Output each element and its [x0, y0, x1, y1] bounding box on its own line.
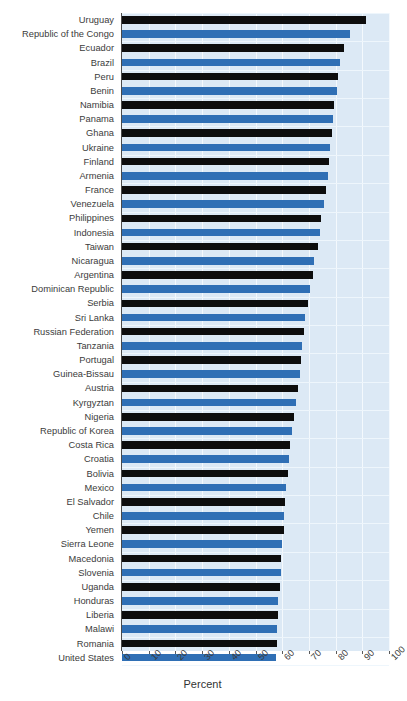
bar-row	[122, 141, 389, 155]
bar-row	[122, 424, 389, 438]
category-label: Armenia	[0, 169, 118, 183]
bar	[122, 271, 313, 279]
bar	[122, 87, 337, 95]
bar	[122, 583, 280, 591]
category-axis-labels: UruguayRepublic of the CongoEcuadorBrazi…	[0, 13, 118, 665]
category-label: Philippines	[0, 211, 118, 225]
bar	[122, 44, 344, 52]
x-tick-label: 0	[122, 651, 133, 662]
bar-rows	[122, 13, 389, 651]
bar-row	[122, 98, 389, 112]
category-label: Nicaragua	[0, 254, 118, 268]
bar-row	[122, 70, 389, 84]
bar	[122, 158, 329, 166]
category-label: Nigeria	[0, 410, 118, 424]
bar-row	[122, 594, 389, 608]
bar	[122, 101, 334, 109]
bar	[122, 385, 298, 393]
category-label: United States	[0, 651, 118, 665]
bar-row	[122, 353, 389, 367]
bar	[122, 512, 284, 520]
bar	[122, 611, 278, 619]
bar-row	[122, 467, 389, 481]
bar-row	[122, 126, 389, 140]
category-label: Kyrgyztan	[0, 396, 118, 410]
bar	[122, 215, 321, 223]
bar-row	[122, 396, 389, 410]
bar-row	[122, 13, 389, 27]
bar-row	[122, 296, 389, 310]
bar	[122, 328, 304, 336]
bar	[122, 229, 320, 237]
category-label: Uruguay	[0, 13, 118, 27]
category-label: Brazil	[0, 56, 118, 70]
x-axis-title: Percent	[0, 678, 405, 690]
bar-row	[122, 495, 389, 509]
bar	[122, 200, 324, 208]
bar	[122, 285, 310, 293]
bar	[122, 186, 326, 194]
category-label: France	[0, 183, 118, 197]
category-label: Austria	[0, 381, 118, 395]
bar-row	[122, 254, 389, 268]
bar	[122, 356, 301, 364]
category-label: Ukraine	[0, 141, 118, 155]
bar	[122, 314, 305, 322]
gridline-vertical	[389, 13, 390, 651]
bar-row	[122, 608, 389, 622]
bar	[122, 498, 285, 506]
category-label: Dominican Republic	[0, 282, 118, 296]
category-label: Croatia	[0, 452, 118, 466]
bar-row	[122, 552, 389, 566]
bar-row	[122, 226, 389, 240]
bar-row	[122, 41, 389, 55]
category-label: Mexico	[0, 481, 118, 495]
bar	[122, 59, 340, 67]
bar-row	[122, 537, 389, 551]
category-label: Romania	[0, 637, 118, 651]
bar	[122, 243, 318, 251]
bar-row	[122, 183, 389, 197]
category-label: Sri Lanka	[0, 311, 118, 325]
bar-row	[122, 523, 389, 537]
bar	[122, 30, 350, 38]
bar	[122, 555, 281, 563]
bar	[122, 73, 338, 81]
value-axis-line	[121, 13, 122, 651]
bar-row	[122, 566, 389, 580]
category-label: Costa Rica	[0, 438, 118, 452]
category-label: El Salvador	[0, 495, 118, 509]
category-label: Ghana	[0, 126, 118, 140]
category-label: Venezuela	[0, 197, 118, 211]
category-label: Panama	[0, 112, 118, 126]
bar	[122, 484, 286, 492]
bar-row	[122, 622, 389, 636]
category-label: Taiwan	[0, 240, 118, 254]
bar	[122, 16, 366, 24]
bar	[122, 413, 294, 421]
bar	[122, 399, 296, 407]
bar	[122, 569, 281, 577]
bar	[122, 144, 330, 152]
category-label: Honduras	[0, 594, 118, 608]
bar-row	[122, 197, 389, 211]
category-label: Slovenia	[0, 566, 118, 580]
category-label: Chile	[0, 509, 118, 523]
category-label: Peru	[0, 70, 118, 84]
category-label: Sierra Leone	[0, 537, 118, 551]
bar-row	[122, 311, 389, 325]
bar-row	[122, 452, 389, 466]
category-label: Benin	[0, 84, 118, 98]
category-label: Argentina	[0, 268, 118, 282]
plot-wrapper: UruguayRepublic of the CongoEcuadorBrazi…	[0, 0, 405, 660]
category-label: Guinea-Bissau	[0, 367, 118, 381]
category-label: Bolivia	[0, 467, 118, 481]
bar-row	[122, 112, 389, 126]
category-label: Republic of the Congo	[0, 27, 118, 41]
bar-row	[122, 169, 389, 183]
bar-row	[122, 481, 389, 495]
category-label: Indonesia	[0, 226, 118, 240]
category-label: Uganda	[0, 580, 118, 594]
bar	[122, 625, 277, 633]
